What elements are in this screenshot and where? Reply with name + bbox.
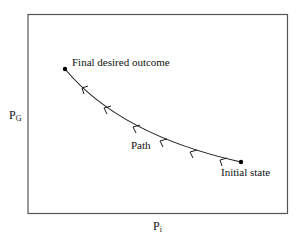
initial-state-dot [239, 160, 243, 164]
final-outcome-dot [63, 67, 67, 71]
path-curve [65, 69, 241, 162]
arrow-icon [160, 139, 167, 147]
diagram-canvas [0, 0, 298, 237]
path-label: Path [131, 140, 151, 151]
initial-state-label: Initial state [221, 167, 270, 178]
final-outcome-label: Final desired outcome [72, 57, 170, 68]
arrow-icon [190, 150, 197, 158]
x-axis-label: Pi [153, 220, 162, 234]
plot-frame [28, 15, 288, 214]
direction-arrows [82, 86, 227, 166]
y-axis-label: PG [9, 109, 21, 123]
arrow-icon [104, 106, 111, 114]
arrow-icon [220, 158, 227, 166]
